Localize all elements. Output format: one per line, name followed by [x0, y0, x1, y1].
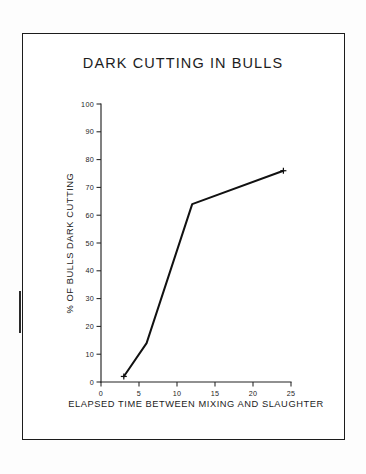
- x-axis-title: ELAPSED TIME BETWEEN MIXING AND SLAUGHTE…: [68, 399, 323, 409]
- y-tick-label: 90: [85, 127, 94, 136]
- x-tick-label: 0: [99, 389, 103, 398]
- y-tick-label: 30: [85, 294, 94, 303]
- series-line: [124, 171, 284, 377]
- page-canvas: DARK CUTTING IN BULLS 010203040506070809…: [0, 0, 366, 474]
- y-tick-label: 10: [85, 350, 94, 359]
- line-chart-plot: 0102030405060708090100% OF BULLS DARK CU…: [0, 0, 366, 474]
- y-tick-label: 0: [90, 378, 94, 387]
- y-tick-label: 80: [85, 155, 94, 164]
- y-tick-label: 60: [85, 211, 94, 220]
- x-tick-label: 20: [249, 389, 258, 398]
- x-tick-label: 5: [137, 389, 141, 398]
- data-series: [121, 168, 287, 380]
- x-tick-label: 15: [211, 389, 220, 398]
- y-tick-label: 40: [85, 266, 94, 275]
- x-tick-label: 10: [173, 389, 182, 398]
- y-axis: 0102030405060708090100% OF BULLS DARK CU…: [65, 100, 101, 387]
- y-tick-label: 50: [85, 239, 94, 248]
- y-axis-title: % OF BULLS DARK CUTTING: [65, 173, 75, 314]
- x-tick-label: 25: [287, 389, 296, 398]
- y-tick-label: 20: [85, 322, 94, 331]
- y-tick-label: 70: [85, 183, 94, 192]
- y-tick-label: 100: [81, 100, 94, 109]
- data-point-marker: [280, 168, 286, 174]
- x-axis: 0510152025ELAPSED TIME BETWEEN MIXING AN…: [68, 382, 323, 409]
